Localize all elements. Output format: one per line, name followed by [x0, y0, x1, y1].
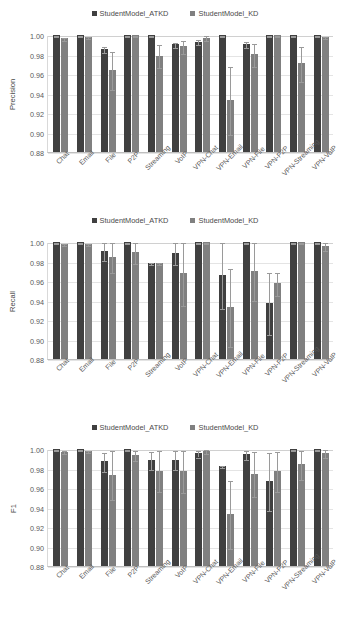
bar-atkd[interactable]: [101, 461, 108, 566]
error-bar-cap: [157, 45, 162, 46]
bar-kd[interactable]: [322, 37, 329, 152]
bar-atkd[interactable]: [101, 251, 108, 359]
legend-swatch-icon: [190, 11, 195, 16]
bar-kd[interactable]: [156, 56, 163, 152]
error-bar-cap: [299, 244, 304, 245]
legend-item-atkd[interactable]: StudentModel_ATKD: [92, 9, 169, 18]
bar-kd[interactable]: [132, 252, 139, 359]
bar-atkd[interactable]: [77, 35, 84, 152]
bar-kd[interactable]: [85, 37, 92, 152]
bar-slot: [195, 450, 202, 566]
bar-atkd[interactable]: [219, 35, 226, 152]
y-axis-tick-label: 0.98: [30, 51, 44, 60]
bar-group: [73, 450, 97, 566]
bar-atkd[interactable]: [243, 44, 250, 152]
error-bar-cap: [181, 243, 186, 244]
bar-atkd[interactable]: [314, 242, 321, 359]
bar-atkd[interactable]: [77, 449, 84, 566]
bar-atkd[interactable]: [243, 454, 250, 566]
bar-kd[interactable]: [85, 451, 92, 566]
legend-item-kd[interactable]: StudentModel_KD: [190, 9, 258, 18]
x-axis-labels: ChatEmailFileP2PStreamingVoIPVPN-ChatVPN…: [48, 567, 334, 621]
bar-kd[interactable]: [298, 242, 305, 359]
error-bar-cap: [299, 47, 304, 48]
bar-atkd[interactable]: [148, 460, 155, 566]
bar-atkd[interactable]: [290, 449, 297, 566]
chart-legend: StudentModel_ATKDStudentModel_KD: [0, 9, 350, 18]
bar-kd[interactable]: [61, 244, 68, 359]
bar-kd[interactable]: [85, 244, 92, 359]
bar-slot: [290, 243, 297, 359]
bar-atkd[interactable]: [243, 242, 250, 359]
bar-kd[interactable]: [180, 46, 187, 152]
bar-kd[interactable]: [132, 35, 139, 152]
error-bar-cap: [315, 451, 320, 452]
bar-atkd[interactable]: [314, 449, 321, 566]
bar-atkd[interactable]: [101, 49, 108, 152]
error-bar-cap: [228, 135, 233, 136]
bar-kd[interactable]: [322, 453, 329, 566]
bar-kd[interactable]: [203, 242, 210, 359]
error-bar-cap: [244, 42, 249, 43]
bar-atkd[interactable]: [124, 449, 131, 566]
bar-atkd[interactable]: [172, 44, 179, 152]
bar-kd[interactable]: [274, 35, 281, 152]
bar-atkd[interactable]: [53, 35, 60, 152]
bar-atkd[interactable]: [124, 35, 131, 152]
x-axis-tick: Chat: [48, 153, 72, 207]
bar-slot: [290, 450, 297, 566]
legend-item-atkd[interactable]: StudentModel_ATKD: [92, 216, 169, 225]
bar-group: [238, 243, 262, 359]
legend-label: StudentModel_KD: [198, 216, 258, 225]
bar-slot: [132, 450, 139, 566]
error-bar-cap: [62, 451, 67, 452]
bar-slot: [172, 36, 179, 152]
x-axis-tick-label: File: [104, 358, 117, 371]
bar-atkd[interactable]: [219, 466, 226, 566]
error-bar-cap: [291, 37, 296, 38]
bar-group: [96, 243, 120, 359]
bar-atkd[interactable]: [148, 263, 155, 359]
bar-atkd[interactable]: [290, 35, 297, 152]
bar-kd[interactable]: [132, 455, 139, 566]
bar-slot: [274, 450, 281, 566]
bar-kd[interactable]: [251, 54, 258, 152]
bar-kd[interactable]: [322, 246, 329, 359]
bar-atkd[interactable]: [290, 242, 297, 359]
bar-groups: [49, 36, 333, 152]
bar-atkd[interactable]: [53, 449, 60, 566]
bar-atkd[interactable]: [77, 242, 84, 359]
plot-area: 1.000.980.960.940.920.900.88: [47, 243, 333, 360]
legend-item-kd[interactable]: StudentModel_KD: [190, 216, 258, 225]
error-bar-cap: [157, 265, 162, 266]
legend-item-atkd[interactable]: StudentModel_ATKD: [92, 423, 169, 432]
bar-atkd[interactable]: [172, 460, 179, 566]
error-bar: [159, 45, 160, 68]
bar-kd[interactable]: [203, 451, 210, 566]
bar-atkd[interactable]: [266, 35, 273, 152]
bar-atkd[interactable]: [195, 242, 202, 359]
bar-kd[interactable]: [61, 38, 68, 152]
bar-atkd[interactable]: [195, 42, 202, 152]
bar-group: [215, 450, 239, 566]
x-axis-tick-label: Chat: [55, 357, 70, 372]
bar-group: [167, 243, 191, 359]
y-axis-tick-label: 0.88: [30, 149, 44, 158]
bar-kd[interactable]: [61, 452, 68, 566]
bar-atkd[interactable]: [148, 35, 155, 152]
bar-kd[interactable]: [156, 263, 163, 359]
bar-kd[interactable]: [203, 38, 210, 152]
y-axis-tick-label: 0.92: [30, 317, 44, 326]
bar-atkd[interactable]: [314, 35, 321, 152]
error-bar-cap: [133, 37, 138, 38]
error-bar-cap: [220, 243, 225, 244]
bar-atkd[interactable]: [53, 242, 60, 359]
x-axis-labels: ChatEmailFileP2PStreamingVoIPVPN-ChatVPN…: [48, 153, 334, 207]
bar-atkd[interactable]: [172, 253, 179, 359]
bar-slot: [290, 36, 297, 152]
bar-atkd[interactable]: [124, 242, 131, 359]
legend-item-kd[interactable]: StudentModel_KD: [190, 423, 258, 432]
bar-atkd[interactable]: [195, 453, 202, 566]
bar-slot: [298, 36, 305, 152]
error-bar-cap: [275, 492, 280, 493]
